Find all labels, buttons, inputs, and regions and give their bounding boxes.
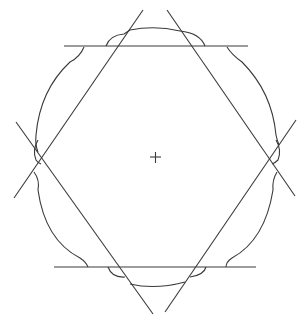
center-cross-icon	[150, 152, 161, 163]
geometry-diagram	[0, 0, 307, 323]
right-falling-line	[167, 10, 295, 196]
left-rising-line	[14, 10, 143, 198]
left-falling-line	[16, 122, 153, 314]
right-rising-line	[165, 120, 296, 312]
